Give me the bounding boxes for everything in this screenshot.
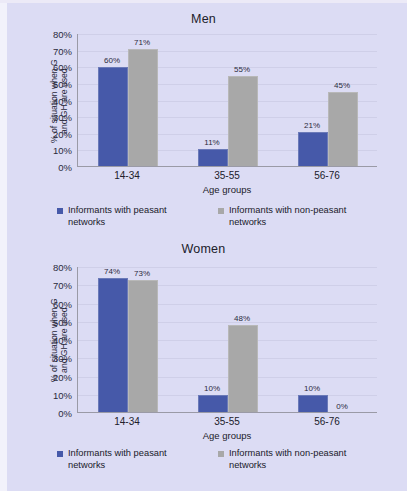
legend-item-non-peasant-men[interactable]: Informants with non-peasant networks [218, 204, 361, 229]
plot-inner-men [78, 34, 377, 167]
legend-label-non-peasant: Informants with non-peasant networks [229, 204, 361, 229]
bar-value-label: 73% [134, 269, 150, 278]
x-axis-tick-35-55: 35-55 [214, 170, 240, 181]
square-swatch-icon [218, 208, 224, 214]
x-axis-label-women: Age groups [77, 430, 377, 441]
x-axis-label-men: Age groups [77, 184, 377, 195]
square-swatch-icon [57, 208, 63, 214]
bar-value-label: 55% [234, 65, 250, 74]
y-axis-tick: 40% [32, 335, 72, 346]
chart-title-men: Men [0, 12, 407, 26]
y-axis-tick: 10% [32, 389, 72, 400]
y-axis-tick: 0% [32, 162, 72, 173]
bar-peasant-14-34 [98, 278, 128, 413]
x-axis-tick-14-34: 14-34 [114, 416, 140, 427]
y-axis-tick: 50% [32, 78, 72, 89]
bar-value-label: 45% [334, 81, 350, 90]
legend-label-non-peasant: Informants with non-peasant networks [229, 447, 361, 472]
bar-value-label: 74% [104, 267, 120, 276]
y-axis-tick: 60% [32, 62, 72, 73]
legend-men: Informants with peasant networks Informa… [0, 204, 407, 238]
bar-non-peasant-14-34 [128, 49, 158, 167]
bar-value-label: 48% [234, 314, 250, 323]
bar-non-peasant-35-55 [228, 325, 258, 413]
bar-peasant-35-55 [198, 149, 228, 167]
y-axis-tick: 20% [32, 128, 72, 139]
x-axis-tick-56-76: 56-76 [314, 416, 340, 427]
bar-non-peasant-35-55 [228, 76, 258, 167]
gridline [78, 51, 377, 52]
y-axis-tick: 80% [32, 262, 72, 273]
x-axis-tick-56-76: 56-76 [314, 170, 340, 181]
plot-inner-women [78, 267, 377, 413]
bar-value-label: 21% [304, 121, 320, 130]
x-axis-tick-35-55: 35-55 [214, 416, 240, 427]
legend-label-peasant: Informants with peasant networks [68, 204, 200, 229]
y-axis-tick: 20% [32, 371, 72, 382]
y-axis-tick: 10% [32, 145, 72, 156]
bar-peasant-56-76 [298, 395, 328, 413]
gridline [78, 34, 377, 35]
y-axis-tick: 80% [32, 29, 72, 40]
bar-peasant-14-34 [98, 67, 128, 167]
y-axis-tick: 60% [32, 298, 72, 309]
y-axis-tick: 40% [32, 95, 72, 106]
legend-item-peasant-women[interactable]: Informants with peasant networks [57, 447, 200, 472]
legend-women: Informants with peasant networks Informa… [0, 447, 407, 481]
y-axis-tick: 70% [32, 280, 72, 291]
legend-label-peasant: Informants with peasant networks [68, 447, 200, 472]
bar-value-label: 10% [204, 384, 220, 393]
bar-value-label: 60% [104, 56, 120, 65]
square-swatch-icon [57, 451, 63, 457]
bar-value-label: 10% [304, 384, 320, 393]
y-axis-tick: 70% [32, 45, 72, 56]
square-swatch-icon [218, 451, 224, 457]
legend-item-non-peasant-women[interactable]: Informants with non-peasant networks [218, 447, 361, 472]
bar-peasant-56-76 [298, 132, 328, 167]
figure-canvas: Men % of situation when G and GH are use… [0, 0, 407, 491]
gridline [78, 267, 377, 268]
y-axis-tick: 50% [32, 316, 72, 327]
bar-value-label: 11% [204, 138, 219, 147]
chart-title-women: Women [0, 242, 407, 256]
y-axis-tick: 30% [32, 353, 72, 364]
bar-non-peasant-14-34 [128, 280, 158, 413]
bar-value-label: 71% [134, 38, 150, 47]
x-axis-line-women [78, 412, 377, 413]
bar-value-label: 0% [336, 402, 348, 411]
bar-non-peasant-56-76 [328, 92, 358, 167]
plot-area-women [77, 267, 377, 413]
x-axis-tick-14-34: 14-34 [114, 170, 140, 181]
bar-peasant-35-55 [198, 395, 228, 413]
x-axis-line-men [78, 166, 377, 167]
plot-area-men [77, 34, 377, 167]
y-axis-tick: 0% [32, 408, 72, 419]
y-axis-tick: 30% [32, 112, 72, 123]
legend-item-peasant-men[interactable]: Informants with peasant networks [57, 204, 200, 229]
